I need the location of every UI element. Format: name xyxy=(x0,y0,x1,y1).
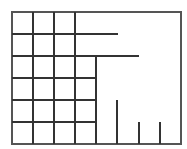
diagram-lines xyxy=(12,12,160,144)
partition-diagram xyxy=(0,0,187,149)
